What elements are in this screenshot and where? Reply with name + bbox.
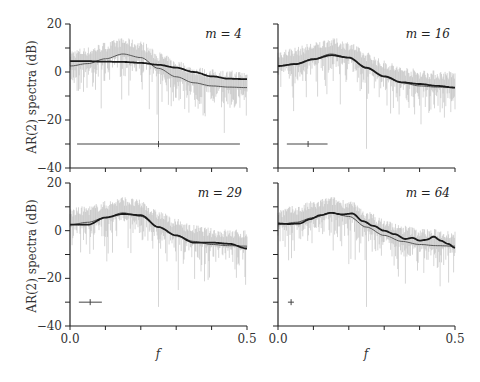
y-tick-label: 0 <box>54 65 62 79</box>
y-axis-label-bottom: AR(2) spectra (dB) <box>25 199 39 314</box>
raw-periodogram <box>70 38 247 148</box>
panels-group: 200−20−40m = 4m = 16200−20−400.00.5m = 2… <box>37 17 465 346</box>
y-tick-label: 0 <box>54 224 62 238</box>
y-tick-label: −40 <box>37 319 62 333</box>
x-axis-label-right: f <box>363 347 371 361</box>
y-tick-label: −20 <box>37 271 62 285</box>
y-axis-label-top: AR(2) spectra (dB) <box>25 40 39 155</box>
y-tick-label: 20 <box>47 176 62 190</box>
panel-label: m = 29 <box>198 186 243 200</box>
panel-label: m = 16 <box>406 27 451 41</box>
panel-4: 200−20−40m = 4 <box>37 17 247 175</box>
raw-periodogram <box>278 38 455 148</box>
x-tick-label: 0.0 <box>60 332 79 346</box>
raw-periodogram <box>70 197 247 307</box>
x-tick-label: 0.0 <box>268 332 287 346</box>
panel-29: 200−20−400.00.5m = 29 <box>37 176 257 346</box>
x-tick-label: 0.5 <box>445 332 464 346</box>
y-tick-label: −40 <box>37 161 62 175</box>
panel-label: m = 64 <box>406 186 450 200</box>
panel-16: m = 16 <box>273 24 455 172</box>
x-axis-label-left: f <box>155 347 163 361</box>
panel-64: 0.00.5m = 64 <box>268 183 464 346</box>
y-tick-label: 20 <box>47 17 62 31</box>
x-tick-label: 0.5 <box>237 332 256 346</box>
panel-label: m = 4 <box>205 27 242 41</box>
raw-periodogram <box>278 197 455 307</box>
y-tick-label: −20 <box>37 113 62 127</box>
spectra-figure: 200−20−40m = 4m = 16200−20−400.00.5m = 2… <box>0 0 480 382</box>
